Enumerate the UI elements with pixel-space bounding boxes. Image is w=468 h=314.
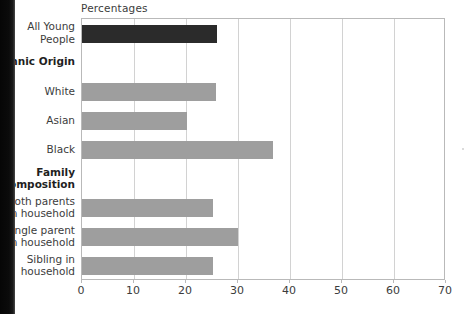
plot-area — [81, 18, 445, 280]
bar — [82, 257, 213, 275]
bar-row — [82, 112, 444, 130]
x-tick-label-70: 70 — [438, 284, 452, 297]
chart-axis-title: Percentages — [81, 2, 148, 14]
bar — [82, 112, 187, 130]
bar-row — [82, 83, 444, 101]
bar-row — [82, 25, 444, 43]
x-tick-label-40: 40 — [282, 284, 296, 297]
x-tick-mark-70 — [445, 280, 446, 283]
x-tick-mark-60 — [393, 280, 394, 283]
bar-row — [82, 170, 444, 188]
bar-chart: Percentages All Young PeopleEthnic Origi… — [0, 0, 468, 314]
bar-row — [82, 199, 444, 217]
x-tick-mark-20 — [185, 280, 186, 283]
x-tick-label-0: 0 — [78, 284, 85, 297]
bar — [82, 228, 238, 246]
x-tick-mark-40 — [289, 280, 290, 283]
bar-row — [82, 54, 444, 72]
scan-page-edge — [0, 0, 15, 314]
x-tick-label-20: 20 — [178, 284, 192, 297]
bar-row — [82, 257, 444, 275]
bar-row — [82, 228, 444, 246]
x-tick-label-50: 50 — [334, 284, 348, 297]
x-tick-label-60: 60 — [386, 284, 400, 297]
x-tick-label-10: 10 — [126, 284, 140, 297]
x-tick-mark-10 — [133, 280, 134, 283]
bar — [82, 199, 213, 217]
x-tick-mark-30 — [237, 280, 238, 283]
x-axis-ticks: 010203040506070 — [81, 280, 445, 300]
bar-row — [82, 141, 444, 159]
x-tick-mark-50 — [341, 280, 342, 283]
bar — [82, 141, 273, 159]
bar — [82, 83, 216, 101]
bar — [82, 25, 217, 43]
x-tick-label-30: 30 — [230, 284, 244, 297]
x-tick-mark-0 — [81, 280, 82, 283]
bar-series — [82, 19, 444, 279]
scan-speckle — [462, 148, 464, 150]
